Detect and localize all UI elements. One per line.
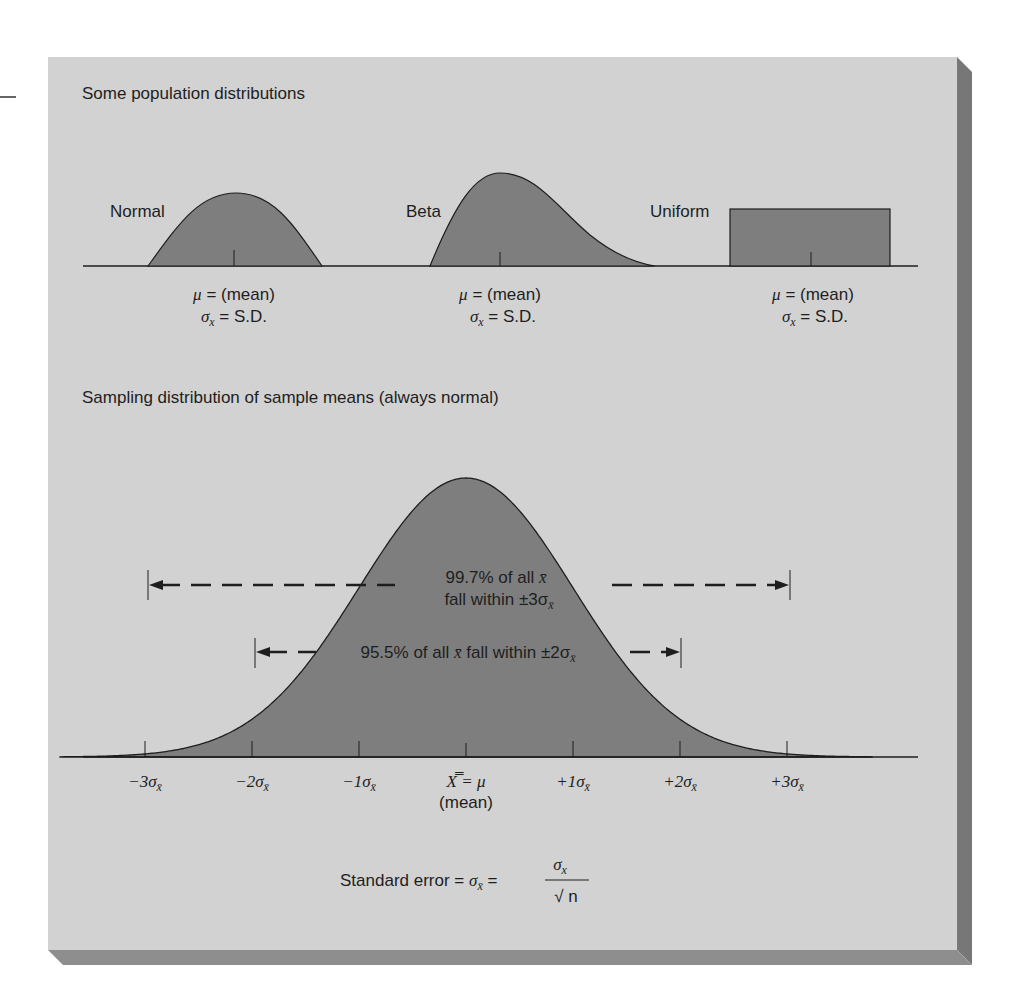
svg-text:Standard error = σx̄ =: Standard error = σx̄ = — [340, 871, 497, 893]
beta-label: Beta — [406, 202, 442, 221]
uniform-label: Uniform — [650, 202, 710, 221]
axis-tick-label: X̿ = μ — [446, 772, 486, 791]
range-2sigma-label: 95.5% of all x̄ fall within ±2σx̄ — [360, 643, 576, 665]
panel-shadow-bottom — [48, 950, 972, 965]
bottom-section-title: Sampling distribution of sample means (a… — [82, 388, 499, 407]
panel-shadow-right — [957, 57, 972, 965]
top-section-title: Some population distributions — [82, 84, 305, 103]
normal-mean-label: μ = (mean) — [192, 285, 275, 304]
range-3sigma-label-line1: 99.7% of all x̄ — [445, 568, 547, 587]
svg-text:√ n: √ n — [554, 887, 578, 906]
range-3sigma-label-line2: fall within ±3σx̄ — [444, 590, 554, 612]
uniform-mean-label: μ = (mean) — [771, 285, 854, 304]
normal-label: Normal — [110, 202, 165, 221]
beta-mean-label: μ = (mean) — [458, 285, 541, 304]
mean-caption: (mean) — [439, 793, 493, 812]
figure: Some population distributions Normal μ =… — [0, 0, 1017, 1006]
uniform-distribution-rect — [730, 209, 890, 266]
